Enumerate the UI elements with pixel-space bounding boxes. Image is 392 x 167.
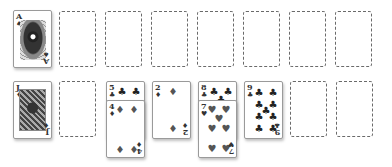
diamond-icon: ♦ bbox=[182, 122, 188, 129]
heart-icon: ♥ bbox=[201, 110, 207, 117]
club-icon: ♣ bbox=[255, 88, 264, 98]
spade-icon: ♠ bbox=[43, 51, 49, 58]
heart-icon: ♥ bbox=[222, 124, 231, 134]
card-rank-corner-bottom: 2♦ bbox=[182, 122, 188, 137]
club-icon: ♣ bbox=[255, 124, 264, 134]
diamond-icon: ♦ bbox=[136, 141, 142, 148]
jack-face-icon bbox=[19, 89, 46, 131]
card-rank-corner-bottom: 4♦ bbox=[136, 141, 142, 156]
card-jack-of-diamonds[interactable]: J♦ J♦ bbox=[13, 81, 52, 139]
diamond-icon: ♦ bbox=[43, 122, 49, 129]
empty-slot-bottom-8[interactable] bbox=[336, 81, 373, 137]
heart-icon: ♥ bbox=[228, 141, 234, 148]
diamond-icon: ♦ bbox=[109, 110, 115, 117]
diamond-icon: ♦ bbox=[155, 91, 161, 98]
empty-slot-top-7[interactable] bbox=[289, 11, 326, 67]
diamond-icon: ♦ bbox=[169, 87, 178, 97]
empty-slot-bottom-7[interactable] bbox=[290, 81, 327, 137]
club-icon: ♣ bbox=[109, 91, 115, 98]
card-rank-corner-bottom: 9♣ bbox=[274, 122, 280, 137]
empty-slot-top-2[interactable] bbox=[59, 11, 96, 67]
card-rank-corner-bottom: J♦ bbox=[43, 122, 49, 137]
card-two-of-diamonds[interactable]: 2♦ ♦ ♦ 2♦ bbox=[152, 81, 191, 139]
empty-slot-top-6[interactable] bbox=[243, 11, 280, 67]
empty-slot-top-4[interactable] bbox=[151, 11, 188, 67]
empty-slot-bottom-2[interactable] bbox=[59, 81, 96, 137]
club-icon: ♣ bbox=[247, 91, 253, 98]
empty-slot-top-5[interactable] bbox=[197, 11, 234, 67]
card-rank-corner-bottom: 7♥ bbox=[228, 141, 234, 156]
empty-slot-top-8[interactable] bbox=[335, 11, 372, 67]
club-icon: ♣ bbox=[132, 87, 141, 97]
card-ace-of-spades[interactable]: A♠ A♠ bbox=[13, 10, 52, 68]
diamond-icon: ♦ bbox=[169, 124, 178, 134]
card-rank-corner-bottom: A♠ bbox=[43, 51, 49, 66]
card-rank-corner: 2♦ bbox=[155, 83, 161, 98]
club-icon: ♣ bbox=[118, 87, 127, 97]
card-rank-corner: 8♣ bbox=[201, 83, 207, 98]
empty-slot-top-3[interactable] bbox=[105, 11, 142, 67]
diamond-icon: ♦ bbox=[130, 105, 139, 115]
diamond-icon: ♦ bbox=[116, 105, 125, 115]
card-seven-of-hearts[interactable]: 7♥ ♥ ♥ ♥ ♥ ♥ ♥ ♥ 7♥ bbox=[198, 100, 237, 158]
club-icon: ♣ bbox=[255, 112, 264, 122]
club-icon: ♣ bbox=[201, 91, 207, 98]
heart-icon: ♥ bbox=[208, 124, 217, 134]
club-icon: ♣ bbox=[269, 88, 278, 98]
card-rank-corner: 7♥ bbox=[201, 102, 207, 117]
heart-icon: ♥ bbox=[208, 144, 217, 154]
card-rank-corner: 9♣ bbox=[247, 83, 253, 98]
card-rank-corner: 4♦ bbox=[109, 102, 115, 117]
card-nine-of-clubs[interactable]: 9♣ ♣ ♣ ♣ ♣ ♣ ♣ ♣ ♣ ♣ 9♣ bbox=[244, 81, 283, 139]
card-four-of-diamonds[interactable]: 4♦ ♦ ♦ ♦ ♦ 4♦ bbox=[106, 100, 145, 158]
card-rank-corner: 5♣ bbox=[109, 83, 115, 98]
club-icon: ♣ bbox=[274, 122, 280, 129]
diamond-icon: ♦ bbox=[116, 145, 125, 155]
